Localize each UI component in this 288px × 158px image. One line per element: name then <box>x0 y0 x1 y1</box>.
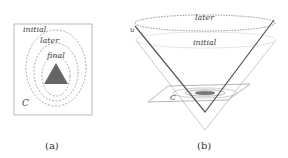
label-later: later <box>40 36 60 45</box>
panel-b: later initial u C (b) <box>130 13 276 151</box>
panel-a: initial later final C (a) <box>14 24 92 151</box>
plane-target <box>195 91 215 95</box>
label-initial: initial <box>23 25 47 34</box>
caption-a: (a) <box>45 140 59 151</box>
target-triangle-icon <box>44 63 68 84</box>
figure: initial later final C (a) later initial … <box>0 0 288 158</box>
label-region-c: C <box>22 98 29 108</box>
label-initial-b: initial <box>193 38 217 47</box>
label-region-c-b: C <box>170 93 176 102</box>
label-final: final <box>46 51 65 60</box>
caption-b: (b) <box>197 140 211 151</box>
label-cone-u: u <box>130 26 135 34</box>
label-later-b: later <box>195 13 215 22</box>
